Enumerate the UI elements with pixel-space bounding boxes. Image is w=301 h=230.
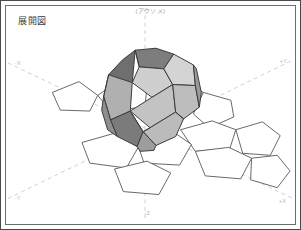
- technical-drawing-canvas: [6, 6, 295, 224]
- axis-label-pos-y: +Y: [280, 58, 287, 65]
- axis-label-neg-x: -X: [15, 60, 21, 67]
- axis-label-pos-x: +X: [279, 198, 286, 205]
- net-face: [52, 82, 97, 111]
- figure-inner-border: 展開図 (アクソメ) -X +Y -Y +X -Z: [5, 5, 296, 225]
- axis-label-neg-z: -Z: [145, 210, 151, 217]
- net-face: [236, 122, 280, 155]
- projection-label: (アクソメ): [136, 7, 166, 15]
- net-face: [251, 155, 290, 187]
- axis-label-neg-y: -Y: [15, 195, 21, 202]
- page-title: 展開図: [18, 16, 47, 27]
- figure-frame: 展開図 (アクソメ) -X +Y -Y +X -Z: [0, 0, 301, 230]
